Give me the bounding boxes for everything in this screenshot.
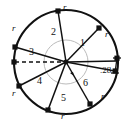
chord-label-r-upper-left: r [12, 24, 16, 33]
chord-label-r-lower-left: r [12, 89, 16, 98]
vertex-dot-right-upper [114, 56, 119, 61]
sector-label-3: 3 [29, 47, 34, 57]
geometry-figure: r r r r r r 1 2 3 4 5 6 .28 r [0, 0, 132, 125]
sector-label-5: 5 [61, 93, 66, 103]
radius-to-vertex-right [66, 61, 117, 62]
vertex-dot-bottom [45, 107, 50, 112]
sector-label-6: 6 [83, 78, 88, 88]
measurement-value: .28 [100, 65, 111, 75]
vertex-dot-lower-right [87, 101, 92, 106]
sector-label-1: 1 [80, 38, 85, 48]
radius-to-vertex-top [58, 11, 66, 62]
chord-label-r-upper-right: r [105, 30, 109, 39]
sector-label-2: 2 [51, 27, 56, 37]
chord-label-r-lower-right: r [101, 92, 105, 101]
radius-to-vertex-left [15, 47, 66, 62]
chord-label-r-top: r [63, 3, 67, 12]
central-angle-arrow-icon [70, 72, 74, 76]
vertex-dot-top [55, 8, 60, 13]
measurement-unit: r [114, 65, 118, 75]
vertex-dot-lower-left [16, 83, 21, 88]
vertex-dot-left [12, 44, 17, 49]
center-dot [64, 60, 69, 65]
vertex-dot-upper-right [96, 25, 101, 30]
chord-label-r-bottom: r [61, 112, 65, 121]
sector-label-4: 4 [37, 76, 42, 86]
figure-canvas [0, 0, 132, 125]
vertex-dot-left-dashed [11, 59, 16, 64]
measurement-label: .28 r [100, 66, 117, 75]
